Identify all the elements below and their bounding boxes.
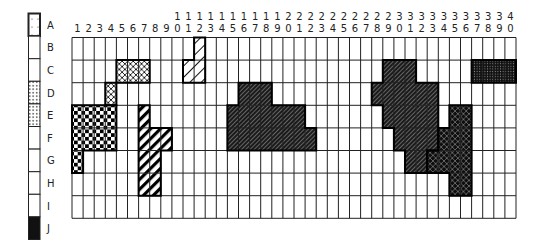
svg-text:2: 2 (363, 11, 369, 22)
svg-text:1: 1 (230, 11, 236, 22)
column-label-31: 31 (407, 11, 413, 34)
column-label-39: 39 (496, 11, 502, 34)
legend-label-e: E (47, 110, 53, 121)
legend-swatch-j (29, 217, 41, 240)
svg-text:1: 1 (208, 11, 214, 22)
legend-swatch-g (29, 149, 41, 172)
column-label-12: 12 (196, 11, 202, 34)
svg-text:2: 2 (307, 11, 313, 22)
svg-text:3: 3 (485, 11, 491, 22)
legend-label-c: C (47, 65, 54, 76)
svg-text:1: 1 (296, 23, 302, 34)
svg-text:1: 1 (185, 23, 191, 34)
column-label-13: 13 (208, 11, 214, 34)
column-label-33: 33 (430, 11, 436, 34)
svg-text:2: 2 (307, 23, 313, 34)
legend-label-b: B (47, 42, 54, 53)
svg-text:3: 3 (319, 23, 325, 34)
column-label-17: 17 (252, 11, 258, 34)
column-label-30: 30 (396, 11, 402, 34)
svg-text:2: 2 (196, 23, 202, 34)
column-label-40: 40 (507, 11, 513, 34)
svg-text:5: 5 (341, 23, 347, 34)
svg-text:2: 2 (385, 11, 391, 22)
legend-label-a: A (47, 20, 54, 31)
legend-label-g: G (47, 155, 55, 166)
legend-swatch-b (29, 36, 41, 59)
column-label-19: 19 (274, 11, 280, 34)
column-label-28: 28 (374, 11, 380, 34)
svg-text:1: 1 (219, 11, 225, 22)
svg-text:1: 1 (196, 11, 202, 22)
svg-text:6: 6 (352, 23, 358, 34)
svg-text:3: 3 (463, 11, 469, 22)
svg-text:3: 3 (474, 11, 480, 22)
svg-text:5: 5 (230, 23, 236, 34)
column-label-27: 27 (363, 11, 369, 34)
svg-text:3: 3 (418, 11, 424, 22)
svg-text:7: 7 (363, 23, 369, 34)
svg-text:8: 8 (263, 23, 269, 34)
legend-swatch-f (29, 127, 41, 150)
svg-text:3: 3 (97, 23, 103, 34)
svg-text:3: 3 (208, 23, 214, 34)
column-label-21: 21 (296, 11, 302, 34)
svg-text:4: 4 (330, 23, 336, 34)
column-label-23: 23 (319, 11, 325, 34)
legend-swatch-i (29, 194, 41, 217)
svg-text:4: 4 (507, 11, 513, 22)
svg-text:3: 3 (396, 11, 402, 22)
svg-text:0: 0 (396, 23, 402, 34)
svg-text:6: 6 (241, 23, 247, 34)
svg-text:0: 0 (507, 23, 513, 34)
svg-text:7: 7 (474, 23, 480, 34)
svg-text:1: 1 (185, 11, 191, 22)
svg-text:2: 2 (319, 11, 325, 22)
svg-text:3: 3 (452, 11, 458, 22)
column-label-20: 20 (285, 11, 291, 34)
svg-text:3: 3 (496, 11, 502, 22)
column-label-11: 11 (185, 11, 191, 34)
svg-text:2: 2 (418, 23, 424, 34)
column-label-10: 10 (174, 11, 180, 34)
column-label-15: 15 (230, 11, 236, 34)
svg-text:1: 1 (407, 23, 413, 34)
column-label-35: 35 (452, 11, 458, 34)
column-label-32: 32 (418, 11, 424, 34)
legend-swatch-d (29, 81, 41, 104)
legend: ABCDEFGHIJ (29, 14, 56, 240)
column-label-16: 16 (241, 11, 247, 34)
legend-label-d: D (47, 88, 55, 99)
svg-text:2: 2 (296, 11, 302, 22)
svg-text:8: 8 (485, 23, 491, 34)
svg-text:6: 6 (130, 23, 136, 34)
column-label-1: 1 (74, 23, 80, 34)
svg-text:1: 1 (74, 23, 80, 34)
legend-swatch-e (29, 104, 41, 127)
legend-label-j: J (46, 223, 50, 234)
svg-text:0: 0 (174, 23, 180, 34)
column-label-34: 34 (441, 11, 447, 34)
svg-text:1: 1 (263, 11, 269, 22)
svg-text:2: 2 (330, 11, 336, 22)
column-label-7: 7 (141, 23, 147, 34)
legend-swatch-h (29, 172, 41, 195)
svg-text:9: 9 (385, 23, 391, 34)
svg-text:2: 2 (85, 23, 91, 34)
svg-text:0: 0 (285, 23, 291, 34)
svg-text:3: 3 (430, 23, 436, 34)
column-label-5: 5 (119, 23, 125, 34)
column-label-3: 3 (97, 23, 103, 34)
svg-text:2: 2 (285, 11, 291, 22)
column-label-22: 22 (307, 11, 313, 34)
svg-text:1: 1 (241, 11, 247, 22)
column-label-26: 26 (352, 11, 358, 34)
svg-text:8: 8 (374, 23, 380, 34)
column-label-18: 18 (263, 11, 269, 34)
svg-text:8: 8 (152, 23, 158, 34)
column-label-4: 4 (108, 23, 114, 34)
column-label-2: 2 (85, 23, 91, 34)
column-label-8: 8 (152, 23, 158, 34)
svg-text:7: 7 (141, 23, 147, 34)
column-label-9: 9 (163, 23, 169, 34)
